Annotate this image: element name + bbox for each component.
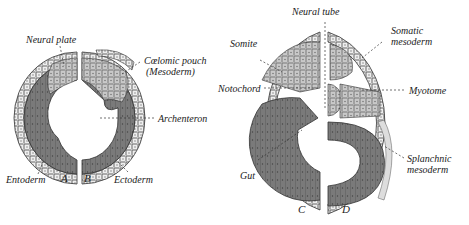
- label-ectoderm: Ectoderm: [114, 174, 153, 185]
- label-somatic: Somatic: [391, 25, 423, 36]
- label-gut: Gut: [240, 170, 255, 181]
- label-notochord: Notochord: [218, 83, 260, 94]
- label-neural-tube: Neural tube: [292, 6, 340, 17]
- label-mesoderm-paren: (Mesoderm): [146, 66, 195, 77]
- label-neural-plate: Neural plate: [26, 34, 76, 45]
- label-somatic-mesoderm: mesoderm: [391, 36, 432, 47]
- panel-d-section: [328, 32, 392, 214]
- panel-label-a: A: [61, 173, 68, 184]
- label-archenteron: Archenteron: [158, 113, 207, 124]
- label-coelomic-pouch: Cœlomic pouch: [144, 55, 207, 66]
- panel-label-b: B: [84, 173, 91, 184]
- label-entoderm: Entoderm: [6, 174, 45, 185]
- panel-a-section: [14, 52, 77, 184]
- label-splanchnic-mesoderm: mesoderm: [407, 164, 448, 175]
- panel-c-section: [249, 32, 320, 210]
- label-somite: Somite: [230, 38, 257, 49]
- panel-b-section: [82, 50, 145, 184]
- label-splanchnic: Splanchnic: [407, 153, 451, 164]
- panel-label-c: C: [298, 204, 305, 215]
- panel-label-d: D: [342, 204, 350, 215]
- label-myotome: Myotome: [409, 85, 446, 96]
